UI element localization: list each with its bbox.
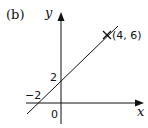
part-label: (b) xyxy=(6,7,24,22)
x-intercept-label: −2 xyxy=(25,89,41,102)
y-axis-arrow-icon xyxy=(58,12,65,21)
point-marker-cross-icon xyxy=(103,31,111,39)
origin-label: 0 xyxy=(51,108,58,121)
point-label: (4, 6) xyxy=(112,29,142,42)
y-intercept-label: 2 xyxy=(50,71,57,84)
x-axis-label: x xyxy=(137,104,144,119)
y-axis-label: y xyxy=(45,5,52,20)
